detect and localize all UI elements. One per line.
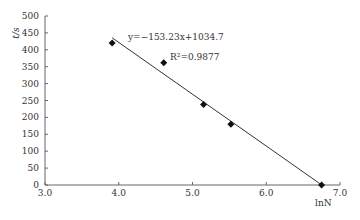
svg-text:250: 250 bbox=[22, 96, 39, 106]
svg-text:150: 150 bbox=[22, 129, 39, 139]
svg-text:300: 300 bbox=[22, 79, 39, 89]
y-axis-label: t/s bbox=[11, 27, 21, 38]
svg-text:6.0: 6.0 bbox=[259, 188, 274, 198]
equation-annotation: y=−153.23x+1034.7 bbox=[128, 32, 224, 42]
svg-text:450: 450 bbox=[22, 28, 39, 38]
svg-text:100: 100 bbox=[22, 146, 39, 156]
x-axis-label: lnN bbox=[315, 198, 332, 208]
svg-text:200: 200 bbox=[22, 112, 39, 122]
svg-text:500: 500 bbox=[22, 11, 39, 21]
svg-text:400: 400 bbox=[22, 45, 39, 55]
r2-annotation: R²=0.9877 bbox=[170, 52, 219, 62]
svg-text:5.0: 5.0 bbox=[185, 188, 200, 198]
svg-text:4.0: 4.0 bbox=[112, 188, 127, 198]
chart: 0501001502002503003504004505003.04.05.06… bbox=[0, 0, 360, 220]
svg-text:7.0: 7.0 bbox=[333, 188, 348, 198]
svg-text:50: 50 bbox=[28, 163, 40, 173]
svg-text:350: 350 bbox=[22, 62, 39, 72]
svg-text:3.0: 3.0 bbox=[38, 188, 53, 198]
